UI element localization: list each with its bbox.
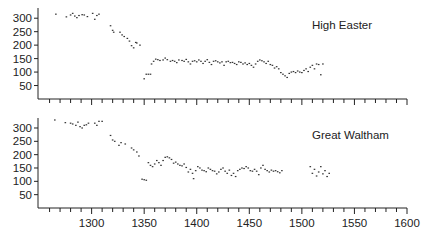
- y-tick-label: 50: [19, 189, 32, 201]
- x-tick-label: 1600: [394, 217, 420, 229]
- panel-title-high-easter: High Easter: [312, 19, 372, 31]
- scatter-points-high-easter: [55, 13, 324, 80]
- y-tick-label: 200: [13, 39, 32, 51]
- y-tick-label: 150: [13, 162, 32, 174]
- y-axis-top: 50100150200250300: [13, 8, 38, 99]
- y-tick-label: 250: [13, 135, 32, 147]
- x-tick-label: 1450: [237, 217, 263, 229]
- x-tick-label: 1550: [342, 217, 368, 229]
- y-axis-bottom: 50100150200250300: [13, 118, 38, 208]
- panel-great-waltham: 50100150200250300 1300135014001450150015…: [13, 118, 420, 229]
- x-tick-label: 1500: [289, 217, 315, 229]
- y-tick-label: 50: [19, 80, 32, 92]
- panel-high-easter: 50100150200250300 High Easter: [13, 8, 407, 105]
- x-axis-top: [38, 99, 407, 105]
- scatter-points-great-waltham: [54, 119, 330, 180]
- y-tick-label: 150: [13, 53, 32, 65]
- panel-title-great-waltham: Great Waltham: [312, 129, 389, 141]
- chart-figure: 50100150200250300 High Easter 5010015020…: [0, 0, 427, 231]
- y-tick-label: 250: [13, 26, 32, 38]
- y-tick-label: 100: [13, 66, 32, 78]
- y-tick-label: 300: [13, 122, 32, 134]
- x-tick-label: 1350: [131, 217, 157, 229]
- y-tick-label: 100: [13, 175, 32, 187]
- y-tick-label: 300: [13, 12, 32, 24]
- x-axis-bottom: 1300135014001450150015501600: [38, 208, 420, 229]
- x-tick-label: 1400: [184, 217, 210, 229]
- y-tick-label: 200: [13, 149, 32, 161]
- x-tick-label: 1300: [79, 217, 105, 229]
